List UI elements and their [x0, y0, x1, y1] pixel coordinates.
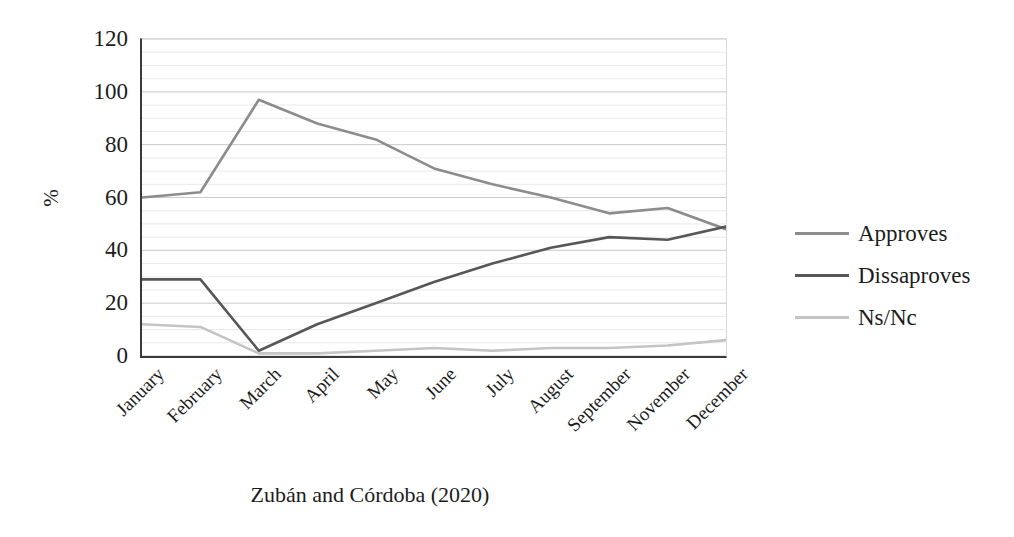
x-axis-tick-may: May: [363, 364, 401, 402]
legend-line-swatch-icon: [795, 232, 849, 235]
x-axis-tick-august: August: [524, 364, 576, 416]
legend-line-swatch-icon: [795, 316, 849, 319]
y-axis-title: %: [31, 185, 71, 211]
y-axis-tick-100: 100: [94, 79, 129, 102]
x-axis-tick-november: November: [623, 364, 693, 434]
plot-area: [140, 38, 727, 358]
y-axis-tick-40: 40: [105, 238, 128, 261]
y-axis-tick-20: 20: [105, 291, 128, 314]
legend-item-approves[interactable]: Approves: [795, 212, 1010, 254]
x-axis-tick-march: March: [236, 364, 285, 413]
legend-item-label: Dissaproves: [858, 264, 970, 287]
x-axis-tick-february: February: [164, 364, 226, 426]
legend-line-swatch-icon: [795, 274, 849, 277]
legend-item-ns-nc[interactable]: Ns/Nc: [795, 296, 1010, 338]
chart-legend: ApprovesDissaprovesNs/Nc: [795, 212, 1010, 338]
x-axis-tick-april: April: [301, 364, 343, 406]
chart-canvas: [142, 39, 726, 356]
y-axis-tick-60: 60: [105, 185, 128, 208]
y-axis-tick-120: 120: [94, 27, 129, 50]
series-line-approves: [142, 100, 726, 229]
x-axis-tick-december: December: [683, 364, 752, 433]
series-line-dissaproves: [142, 227, 726, 351]
x-axis-tick-june: June: [421, 364, 459, 402]
y-axis-tick-labels: 020406080100120: [70, 0, 132, 537]
figure-caption: Zubán and Córdoba (2020): [0, 483, 740, 507]
x-axis-tick-july: July: [482, 364, 518, 400]
y-axis-tick-80: 80: [105, 132, 128, 155]
legend-item-dissaproves[interactable]: Dissaproves: [795, 254, 1010, 296]
legend-item-label: Approves: [858, 222, 947, 245]
legend-item-label: Ns/Nc: [858, 306, 917, 329]
series-line-ns-nc: [142, 324, 726, 353]
chart-figure: % 020406080100120 JanuaryFebruaryMarchAp…: [0, 0, 1014, 537]
y-axis-tick-0: 0: [117, 344, 129, 367]
x-axis-tick-labels: JanuaryFebruaryMarchAprilMayJuneJulyAugu…: [140, 358, 724, 468]
